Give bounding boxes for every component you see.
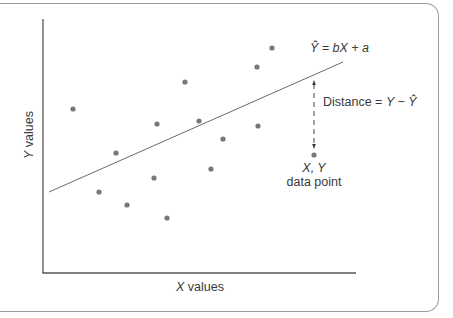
data-point-coords-label: X, Y (302, 161, 325, 175)
data-point (254, 64, 259, 69)
distance-label: Distance = Y − Ŷ (323, 95, 417, 109)
data-point (96, 189, 101, 194)
data-point (151, 175, 156, 180)
data-points (70, 45, 316, 220)
data-point (255, 123, 260, 128)
data-point (269, 45, 274, 50)
data-point (70, 106, 75, 111)
arrow-up-icon (312, 80, 316, 85)
data-point (196, 118, 201, 123)
y-axis-label: Y values (22, 111, 36, 159)
data-point (208, 166, 213, 171)
axes (42, 19, 356, 273)
data-point (113, 150, 118, 155)
data-point (182, 79, 187, 84)
arrow-down-icon (312, 144, 316, 149)
x-axis-label: X values (176, 280, 224, 294)
data-point (154, 121, 159, 126)
distance-arrow (312, 80, 316, 149)
regression-line (49, 62, 343, 192)
regression-equation-label: Ŷ = bX + a (310, 41, 369, 55)
regression-line-path (49, 62, 343, 192)
scatter-plot (0, 0, 453, 318)
data-point (220, 136, 225, 141)
data-point (124, 202, 129, 207)
data-point (164, 215, 169, 220)
data-point (311, 152, 316, 157)
data-point-label: data point (287, 175, 342, 189)
